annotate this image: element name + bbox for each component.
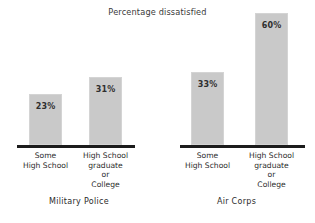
chart-group-air-corps: 33% 60% Some High School High School gra…	[158, 0, 315, 223]
category-label-line: High School	[176, 161, 239, 171]
axis-baseline-right	[180, 145, 305, 148]
plot-area-left: 23% 31%	[0, 0, 158, 145]
category-label-line: College	[74, 180, 137, 190]
category-label-line: Some	[176, 151, 239, 161]
category-label-some-high-school: Some High School	[14, 151, 77, 170]
category-label-line: College	[240, 180, 303, 190]
bar-value-label: 33%	[192, 80, 223, 89]
category-label-line: graduate	[74, 161, 137, 171]
category-label-hs-graduate-or-college: High School graduate or College	[74, 151, 137, 189]
category-label-line: or	[240, 170, 303, 180]
category-label-some-high-school: Some High School	[176, 151, 239, 170]
category-label-line: Some	[14, 151, 77, 161]
category-label-line: High School	[14, 161, 77, 171]
category-label-hs-graduate-or-college: High School graduate or College	[240, 151, 303, 189]
category-label-line: or	[74, 170, 137, 180]
plot-area-right: 33% 60%	[158, 0, 315, 145]
category-label-line: High School	[74, 151, 137, 161]
bar-military-police-some-high-school: 23%	[29, 94, 62, 145]
group-label-military-police: Military Police	[0, 197, 158, 206]
category-label-line: graduate	[240, 161, 303, 171]
axis-baseline-left	[17, 145, 135, 148]
category-label-line: High School	[240, 151, 303, 161]
bar-air-corps-some-high-school: 33%	[191, 72, 224, 145]
bar-air-corps-hs-graduate-or-college: 60%	[255, 13, 288, 145]
bar-military-police-hs-graduate-or-college: 31%	[89, 77, 122, 145]
chart-group-military-police: 23% 31% Some High School High School gra…	[0, 0, 158, 223]
bar-value-label: 60%	[256, 21, 287, 30]
group-label-air-corps: Air Corps	[158, 197, 315, 206]
bar-value-label: 31%	[90, 85, 121, 94]
chart-figure: Percentage dissatisfied 23% 31% Some Hig…	[0, 0, 315, 223]
bar-value-label: 23%	[30, 102, 61, 111]
